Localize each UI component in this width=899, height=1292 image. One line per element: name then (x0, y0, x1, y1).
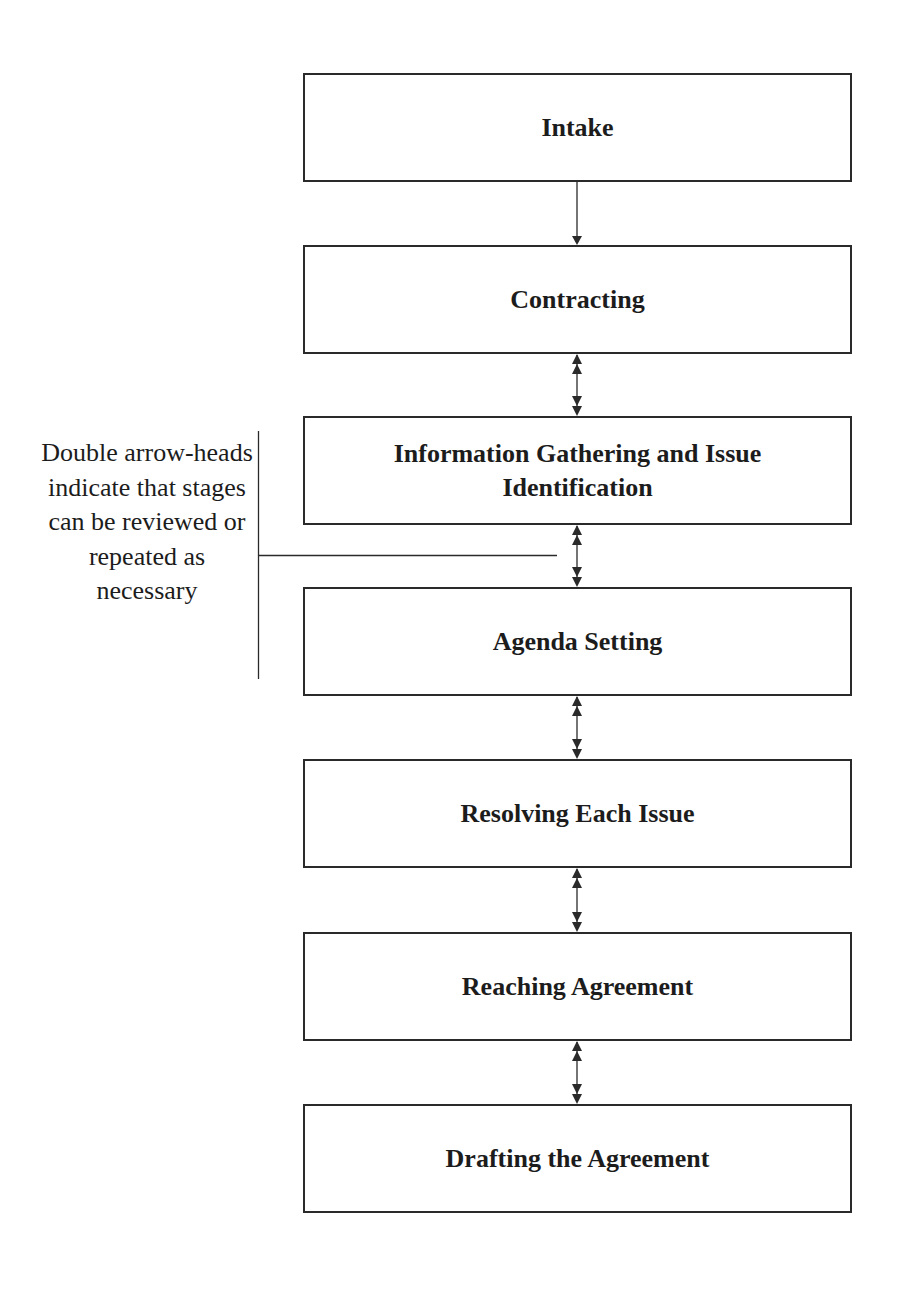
arrow-double-icon (572, 525, 582, 587)
arrow-double-icon (572, 1041, 582, 1104)
arrow-double-icon (572, 696, 582, 759)
arrow-double-icon (572, 354, 582, 416)
arrow-single-icon (572, 182, 582, 245)
arrow-double-icon (572, 868, 582, 932)
connectors-layer (0, 0, 899, 1292)
note-bracket (258, 431, 557, 679)
legend-note: Double arrow-heads indicate that stages … (38, 436, 256, 609)
